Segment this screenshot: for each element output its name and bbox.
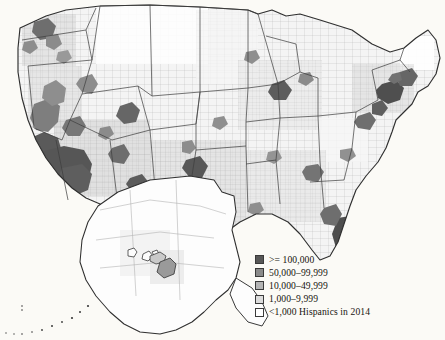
legend-label-ge-100000: >= 100,000 xyxy=(269,255,314,265)
legend-item: 50,000–99,999 xyxy=(255,266,435,279)
legend-item: >= 100,000 xyxy=(255,253,435,266)
legend-swatch-lt-1000 xyxy=(255,308,264,317)
aleutian-islands xyxy=(5,305,89,335)
legend-item: 1,000–9,999 xyxy=(255,293,435,306)
legend-label-50000-99999: 50,000–99,999 xyxy=(269,268,328,278)
legend-label-1000-9999: 1,000–9,999 xyxy=(269,294,318,304)
legend-swatch-ge-100000 xyxy=(255,255,264,264)
legend-item: <1,000 Hispanics in 2014 xyxy=(255,306,435,319)
choropleth-map-figure: >= 100,000 50,000–99,999 10,000–49,999 1… xyxy=(0,0,445,340)
legend-label-10000-49999: 10,000–49,999 xyxy=(269,281,328,291)
legend-swatch-10000-49999 xyxy=(255,281,264,290)
legend-item: 10,000–49,999 xyxy=(255,279,435,292)
legend-swatch-1000-9999 xyxy=(255,295,264,304)
legend-swatch-50000-99999 xyxy=(255,268,264,277)
alaska-inset xyxy=(5,170,268,340)
choropleth-legend: >= 100,000 50,000–99,999 10,000–49,999 1… xyxy=(255,253,435,319)
legend-label-lt-1000: <1,000 Hispanics in 2014 xyxy=(269,307,370,317)
